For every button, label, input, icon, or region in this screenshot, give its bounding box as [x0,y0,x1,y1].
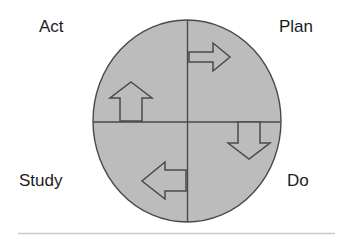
quadrant-label-plan: Plan [279,17,313,37]
quadrant-label-study: Study [19,171,62,191]
pdsa-diagram-figure: Act Plan Study Do [0,0,339,240]
quadrant-label-do: Do [287,171,309,191]
quadrant-label-act: Act [39,17,64,37]
